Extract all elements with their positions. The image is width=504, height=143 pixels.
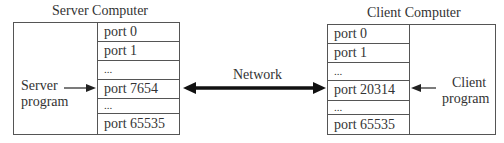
client-program-arrow-icon [411,84,436,92]
diagram-arrows [0,0,504,143]
network-bidirectional-arrow-icon [183,82,326,94]
server-program-arrow-icon [64,84,96,92]
